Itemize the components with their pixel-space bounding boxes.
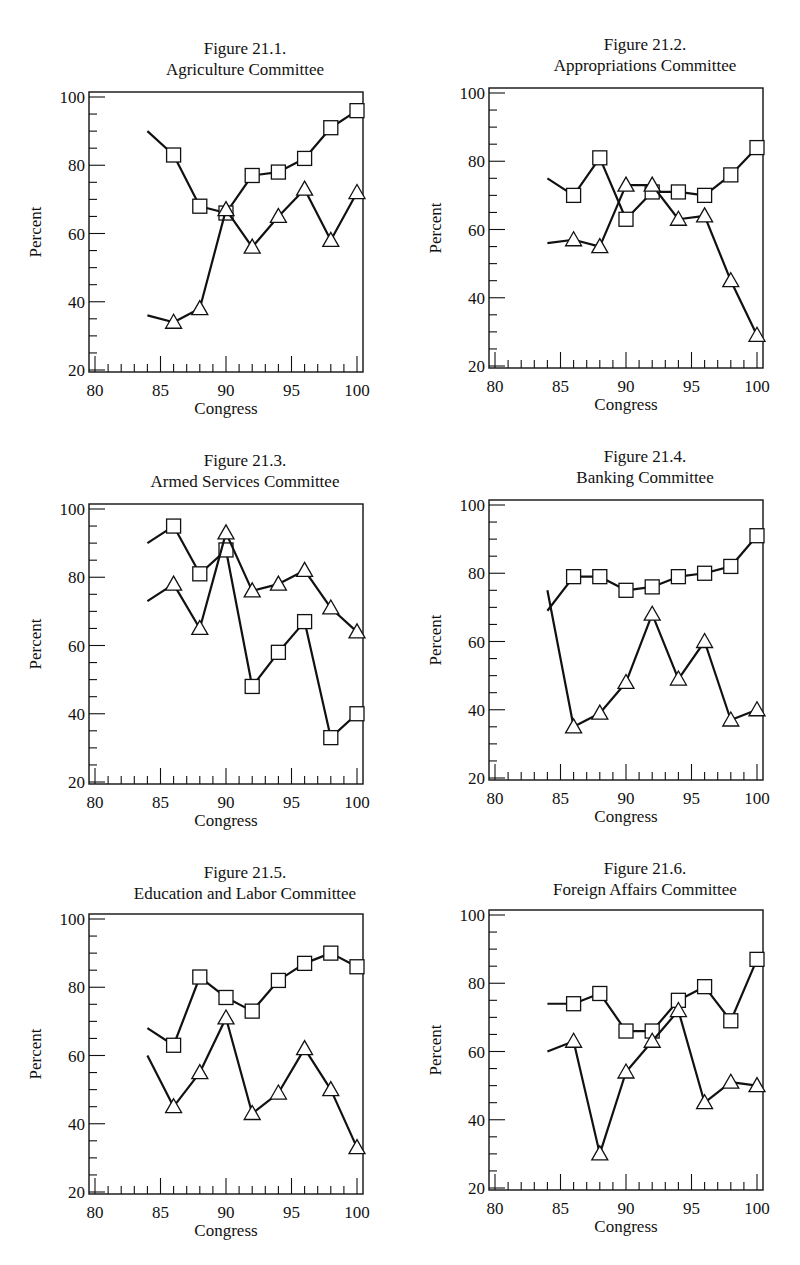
svg-text:100: 100 [344, 793, 370, 812]
svg-text:95: 95 [683, 1199, 700, 1218]
svg-text:80: 80 [68, 978, 85, 997]
svg-text:60: 60 [468, 633, 485, 652]
svg-text:85: 85 [152, 793, 169, 812]
svg-text:20: 20 [68, 773, 85, 792]
svg-text:Congress: Congress [194, 811, 257, 830]
chart-panel-21-2: Figure 21.2. Appropriations Committee 20… [400, 0, 800, 420]
svg-text:95: 95 [283, 1203, 300, 1222]
svg-text:Congress: Congress [194, 399, 257, 418]
svg-text:Percent: Percent [26, 1028, 45, 1079]
svg-text:100: 100 [744, 377, 770, 396]
svg-text:60: 60 [68, 1047, 85, 1066]
svg-text:100: 100 [60, 88, 86, 107]
svg-text:100: 100 [344, 1203, 370, 1222]
line-chart: 2040608010080859095100CongressPercent [400, 840, 800, 1265]
svg-text:Percent: Percent [26, 206, 45, 257]
line-chart: 2040608010080859095100CongressPercent [0, 840, 400, 1265]
chart-panel-21-1: Figure 21.1. Agriculture Committee 20406… [0, 0, 400, 420]
svg-text:85: 85 [552, 377, 569, 396]
line-chart: 2040608010080859095100CongressPercent [0, 0, 400, 420]
svg-text:80: 80 [487, 789, 504, 808]
svg-text:40: 40 [68, 705, 85, 724]
svg-text:90: 90 [618, 1199, 635, 1218]
svg-text:80: 80 [68, 156, 85, 175]
svg-text:80: 80 [468, 974, 485, 993]
svg-text:90: 90 [218, 793, 235, 812]
svg-text:95: 95 [683, 789, 700, 808]
svg-text:40: 40 [68, 1115, 85, 1134]
svg-text:60: 60 [68, 637, 85, 656]
svg-text:60: 60 [468, 221, 485, 240]
svg-text:80: 80 [87, 793, 104, 812]
svg-text:90: 90 [218, 1203, 235, 1222]
line-chart: 2040608010080859095100CongressPercent [400, 420, 800, 840]
svg-text:20: 20 [468, 357, 485, 376]
svg-text:100: 100 [744, 789, 770, 808]
svg-text:Percent: Percent [426, 202, 445, 253]
svg-text:80: 80 [468, 564, 485, 583]
svg-text:60: 60 [468, 1043, 485, 1062]
svg-text:95: 95 [283, 381, 300, 400]
svg-text:Percent: Percent [26, 618, 45, 669]
svg-text:20: 20 [68, 1183, 85, 1202]
svg-text:80: 80 [468, 152, 485, 171]
line-chart: 2040608010080859095100CongressPercent [400, 0, 800, 420]
chart-panel-21-3: Figure 21.3. Armed Services Committee 20… [0, 420, 400, 840]
svg-text:100: 100 [60, 910, 86, 929]
svg-text:80: 80 [87, 1203, 104, 1222]
svg-text:85: 85 [552, 789, 569, 808]
svg-text:100: 100 [744, 1199, 770, 1218]
svg-text:40: 40 [68, 293, 85, 312]
svg-text:80: 80 [487, 377, 504, 396]
svg-text:80: 80 [87, 381, 104, 400]
svg-text:100: 100 [460, 496, 486, 515]
svg-text:40: 40 [468, 289, 485, 308]
svg-text:Congress: Congress [594, 395, 657, 414]
svg-text:90: 90 [618, 377, 635, 396]
svg-text:40: 40 [468, 1111, 485, 1130]
svg-text:40: 40 [468, 701, 485, 720]
svg-text:95: 95 [283, 793, 300, 812]
svg-text:80: 80 [487, 1199, 504, 1218]
svg-text:Congress: Congress [594, 1217, 657, 1236]
svg-text:85: 85 [152, 381, 169, 400]
svg-text:Congress: Congress [594, 807, 657, 826]
svg-text:Percent: Percent [426, 1024, 445, 1075]
chart-panel-21-6: Figure 21.6. Foreign Affairs Committee 2… [400, 840, 800, 1260]
svg-text:Percent: Percent [426, 614, 445, 665]
chart-panel-21-4: Figure 21.4. Banking Committee 204060801… [400, 420, 800, 840]
svg-text:Congress: Congress [194, 1221, 257, 1240]
svg-text:100: 100 [60, 500, 86, 519]
svg-text:20: 20 [468, 1179, 485, 1198]
svg-text:95: 95 [683, 377, 700, 396]
svg-text:20: 20 [468, 769, 485, 788]
svg-text:90: 90 [218, 381, 235, 400]
svg-text:100: 100 [460, 84, 486, 103]
svg-text:100: 100 [460, 906, 486, 925]
chart-panel-21-5: Figure 21.5. Education and Labor Committ… [0, 840, 400, 1260]
svg-text:80: 80 [68, 568, 85, 587]
line-chart: 2040608010080859095100CongressPercent [0, 420, 400, 840]
svg-text:85: 85 [552, 1199, 569, 1218]
svg-text:100: 100 [344, 381, 370, 400]
svg-text:60: 60 [68, 225, 85, 244]
svg-text:85: 85 [152, 1203, 169, 1222]
svg-text:20: 20 [68, 361, 85, 380]
svg-text:90: 90 [618, 789, 635, 808]
